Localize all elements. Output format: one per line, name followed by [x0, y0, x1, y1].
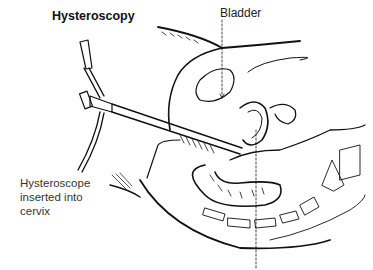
hysteroscopy-diagram: Hysteroscopy Bladder Hysteroscope insert…: [0, 0, 373, 270]
anatomy-illustration: [0, 0, 373, 270]
